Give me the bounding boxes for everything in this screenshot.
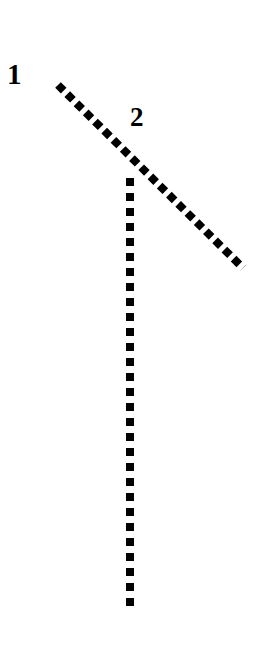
figure-canvas: 1 2 [0,0,257,645]
line-label-2: 2 [130,104,144,131]
figure-background [0,0,257,645]
line-label-1: 1 [7,60,22,89]
figure-drawing [0,0,257,645]
